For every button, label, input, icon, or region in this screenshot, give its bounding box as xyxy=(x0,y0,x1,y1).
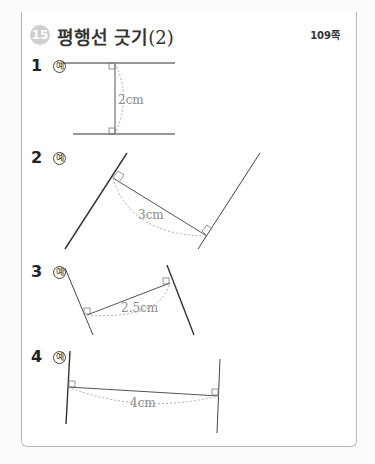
diagram-4 xyxy=(66,351,220,433)
diagrams: 2cm 3cm 2.5cm 4cm xyxy=(0,0,375,464)
diagram-2 xyxy=(65,153,260,249)
distance-label-2: 3cm xyxy=(138,208,164,222)
distance-label-3: 2.5cm xyxy=(121,301,159,315)
distance-label-1: 2cm xyxy=(118,93,144,107)
distance-label-4: 4cm xyxy=(130,396,156,410)
diagram-3 xyxy=(65,265,194,335)
